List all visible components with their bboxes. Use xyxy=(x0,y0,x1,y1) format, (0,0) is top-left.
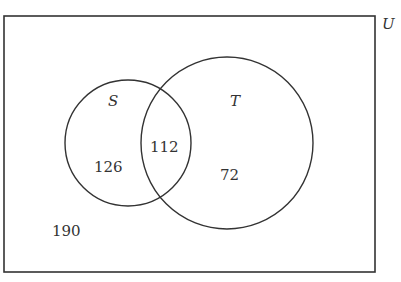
universe-label: U xyxy=(382,15,396,33)
venn-diagram: U S T 126 112 72 190 xyxy=(0,0,401,282)
set-t-label: T xyxy=(230,92,241,110)
set-s-label: S xyxy=(108,92,118,110)
t-only-count: 72 xyxy=(220,166,239,184)
intersection-count: 112 xyxy=(150,138,179,156)
s-only-count: 126 xyxy=(94,158,123,176)
outside-count: 190 xyxy=(52,222,81,240)
